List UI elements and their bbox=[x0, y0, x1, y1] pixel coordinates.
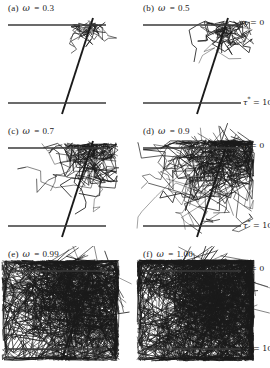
panel-label-a: (a)ω=0.3 bbox=[8, 3, 54, 13]
tau-bottom-label: τ* = 10 bbox=[243, 218, 270, 230]
panel-d: (d)ω=0.9τ = 0τ* = 10 bbox=[135, 123, 270, 246]
incident-beam-line bbox=[62, 18, 93, 114]
panel-index-label: (f) bbox=[143, 249, 153, 259]
trajectory-bundle bbox=[189, 21, 254, 63]
panel-index-label: (b) bbox=[143, 3, 154, 13]
omega-tilde-symbol: ω bbox=[23, 126, 32, 136]
panel-e: (e)ω=0.99 bbox=[0, 246, 135, 368]
equals-sign: = bbox=[34, 126, 39, 136]
omega-tilde-symbol: ω bbox=[23, 249, 32, 259]
trajectory-path bbox=[94, 33, 117, 41]
tau-bottom-value: = 10 bbox=[250, 98, 270, 107]
trajectory-path bbox=[137, 142, 212, 228]
tau-bottom-label: τ* = 10 bbox=[243, 341, 270, 353]
figure-root: (a)ω=0.3(b)ω=0.5τ = 0τ* = 10(c)ω=0.7(d)ω… bbox=[0, 0, 270, 368]
omega-value: 0.5 bbox=[178, 3, 190, 13]
tau-bottom-value: = 10 bbox=[250, 344, 270, 353]
panel-plot-c bbox=[0, 123, 135, 246]
omega-value: 0.3 bbox=[42, 3, 54, 13]
omega-value: 0.9 bbox=[178, 126, 190, 136]
omega-value: 0.99 bbox=[42, 249, 59, 259]
panel-plot-a bbox=[0, 0, 135, 123]
panel-c: (c)ω=0.7 bbox=[0, 123, 135, 246]
tau-top-label: τ = 0 bbox=[243, 141, 264, 150]
trajectory-path bbox=[70, 33, 81, 46]
omega-tilde-symbol: ω bbox=[23, 3, 32, 13]
equals-sign: = bbox=[168, 249, 173, 259]
panel-index-label: (c) bbox=[8, 126, 19, 136]
panel-f: (f)ω=1.00τ = 0τ* = 10 bbox=[135, 246, 270, 368]
panel-label-b: (b)ω=0.5 bbox=[143, 3, 190, 13]
omega-value: 0.7 bbox=[42, 126, 54, 136]
panel-index-label: (d) bbox=[143, 126, 154, 136]
panel-a: (a)ω=0.3 bbox=[0, 0, 135, 123]
omega-tilde-symbol: ω bbox=[157, 249, 166, 259]
omega-value: 1.00 bbox=[176, 249, 193, 259]
equals-sign: = bbox=[34, 3, 39, 13]
panel-label-c: (c)ω=0.7 bbox=[8, 126, 54, 136]
trajectory-bundle bbox=[137, 124, 254, 234]
omega-tilde-symbol: ω bbox=[158, 3, 167, 13]
omega-tilde-symbol: ω bbox=[158, 126, 167, 136]
panel-index-label: (e) bbox=[8, 249, 19, 259]
panel-label-d: (d)ω=0.9 bbox=[143, 126, 190, 136]
equals-sign: = bbox=[34, 249, 39, 259]
panel-b: (b)ω=0.5τ = 0τ* = 10 bbox=[135, 0, 270, 123]
panel-plot-e bbox=[0, 246, 135, 368]
panel-label-e: (e)ω=0.99 bbox=[8, 249, 59, 259]
tau-top-label: τ = 0 bbox=[243, 264, 264, 273]
equals-sign: = bbox=[170, 3, 175, 13]
panel-index-label: (a) bbox=[8, 3, 19, 13]
panel-label-f: (f)ω=1.00 bbox=[143, 249, 193, 259]
tau-bottom-label: τ* = 10 bbox=[243, 95, 270, 107]
tau-top-label: τ = 0 bbox=[243, 18, 264, 27]
equals-sign: = bbox=[170, 126, 175, 136]
trajectory-bundle bbox=[18, 142, 119, 214]
tau-bottom-value: = 10 bbox=[250, 221, 270, 230]
